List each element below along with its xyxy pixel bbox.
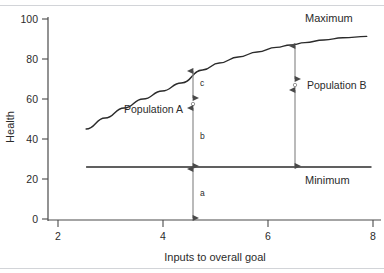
- x-tick-label-2: 2: [55, 230, 61, 242]
- minimum-label: Minimum: [305, 174, 350, 186]
- y-tick-label-20: 20: [26, 173, 38, 185]
- y-tick-label-60: 60: [26, 93, 38, 105]
- x-tick-label-6: 6: [265, 230, 271, 242]
- population-b-label: Population B: [307, 79, 367, 91]
- chart-figure: 100 80 60 40 20 0 Health 2 4 6 8 Inputs …: [0, 0, 384, 273]
- top-divider-rule: [0, 5, 384, 6]
- maximum-label: Maximum: [305, 12, 353, 24]
- x-tick-label-8: 8: [370, 230, 376, 242]
- x-tick-label-4: 4: [160, 230, 166, 242]
- population-a-segment-b-label: b: [200, 131, 205, 141]
- y-tick-label-40: 40: [26, 133, 38, 145]
- y-tick-label-80: 80: [26, 53, 38, 65]
- y-axis-title: Health: [4, 111, 16, 143]
- bottom-divider-rule: [0, 268, 384, 269]
- health-vs-inputs-chart: 100 80 60 40 20 0 Health 2 4 6 8 Inputs …: [0, 0, 384, 273]
- y-tick-label-100: 100: [20, 13, 38, 25]
- population-a-label: Population A: [124, 103, 183, 115]
- x-axis-title: Inputs to overall goal: [164, 251, 266, 263]
- population-a-segment-a-label: a: [200, 188, 205, 198]
- y-tick-label-0: 0: [32, 213, 38, 225]
